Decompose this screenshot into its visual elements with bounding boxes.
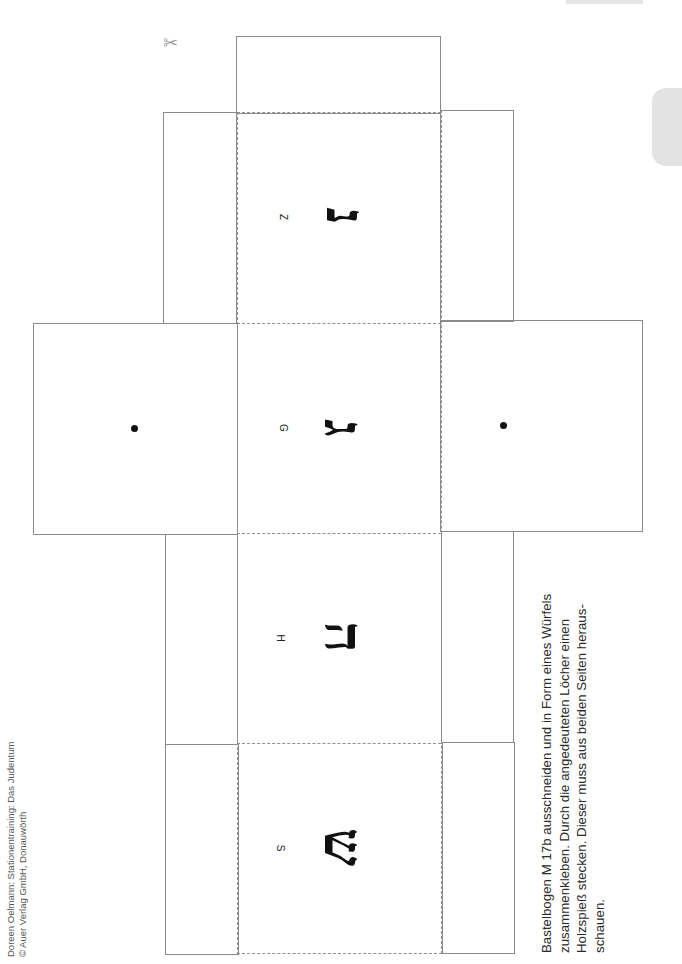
credits: Doreen Oelmann: Stationentraining: Das J… bbox=[5, 742, 29, 957]
scissors-icon: ✂ bbox=[163, 34, 178, 52]
glue-flap-left-3 bbox=[165, 534, 238, 745]
hole-dot-left bbox=[131, 425, 138, 432]
hebrew-letter-he: ה bbox=[311, 607, 371, 667]
glue-flap-right-4 bbox=[442, 742, 515, 954]
fold-line-h4 bbox=[237, 743, 441, 744]
glue-flap-left-4 bbox=[165, 744, 239, 955]
face-label-g: G bbox=[277, 422, 289, 434]
instructions-line-3: Holzspieß stecken. Dieser muss aus beide… bbox=[573, 594, 591, 953]
glue-flap-right-1 bbox=[440, 110, 514, 322]
hole-dot-right bbox=[500, 422, 507, 429]
instructions-line-1: Bastelbogen M 17b ausschneiden und in Fo… bbox=[538, 594, 556, 953]
side-face-right bbox=[440, 320, 643, 532]
face-label-z: Z bbox=[277, 211, 289, 223]
credits-author-line: Doreen Oelmann: Stationentraining: Das J… bbox=[5, 742, 17, 957]
hebrew-letter-gimel: ג bbox=[311, 398, 371, 458]
instructions-line-2: zusammenkleben. Durch die angedeuteten L… bbox=[556, 594, 574, 953]
face-label-s: S bbox=[274, 842, 286, 854]
face-label-h: H bbox=[274, 632, 286, 644]
fold-line-right bbox=[441, 110, 442, 954]
instructions: Bastelbogen M 17b ausschneiden und in Fo… bbox=[538, 594, 608, 953]
fold-line-h2 bbox=[237, 323, 441, 324]
hebrew-letter-nun: נ bbox=[313, 186, 373, 246]
fold-line-h5 bbox=[237, 953, 442, 954]
hebrew-letter-shin: ש bbox=[311, 817, 371, 877]
glue-flap-top bbox=[236, 36, 441, 114]
glue-flap-left-1 bbox=[163, 112, 237, 324]
page-side-tab bbox=[652, 88, 682, 166]
credits-publisher-line: © Auer Verlag GmbH, Donauwörth bbox=[17, 742, 29, 957]
page-header-tab bbox=[566, 0, 643, 4]
glue-flap-right-3 bbox=[441, 531, 514, 743]
instructions-line-4: schauen. bbox=[591, 594, 609, 953]
fold-line-h3 bbox=[237, 533, 441, 534]
fold-line-h1 bbox=[237, 112, 441, 113]
